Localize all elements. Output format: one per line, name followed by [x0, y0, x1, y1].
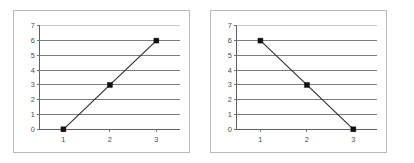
chart-panel-decreasing: 7 6 5 4 3 2 1 0 — [210, 10, 387, 153]
y-tick-label: 2 — [31, 95, 35, 104]
x-tick-label: 1 — [61, 135, 65, 144]
data-point-marker — [304, 82, 309, 87]
y-tick-label: 6 — [31, 36, 35, 45]
y-tick-label: 7 — [228, 21, 232, 30]
y-tick-label: 4 — [228, 66, 232, 75]
line-chart-decreasing: 7 6 5 4 3 2 1 0 — [211, 11, 386, 152]
y-tick-label: 3 — [228, 80, 232, 89]
y-tick-label: 3 — [31, 80, 35, 89]
data-point-marker — [61, 127, 66, 132]
y-tick-label: 1 — [228, 110, 232, 119]
y-tick-label: 7 — [31, 21, 35, 30]
y-tick-label: 5 — [228, 51, 232, 60]
data-point-marker — [154, 38, 159, 43]
x-axis-tick-labels: 1 2 3 — [61, 135, 158, 144]
charts-container: 7 6 5 4 3 2 1 0 — [0, 0, 414, 163]
x-axis-tick-labels: 1 2 3 — [258, 135, 355, 144]
y-tick-label: 1 — [31, 110, 35, 119]
y-tick-label: 6 — [228, 36, 232, 45]
y-tick-label: 2 — [228, 95, 232, 104]
x-tick-label: 2 — [305, 135, 309, 144]
y-tick-label: 5 — [31, 51, 35, 60]
y-axis-tick-labels: 7 6 5 4 3 2 1 0 — [31, 21, 35, 134]
chart-panel-increasing: 7 6 5 4 3 2 1 0 — [13, 10, 190, 153]
y-tick-label: 0 — [31, 125, 35, 134]
y-axis-tick-labels: 7 6 5 4 3 2 1 0 — [228, 21, 232, 134]
x-tick-label: 3 — [351, 135, 355, 144]
x-tick-label: 3 — [154, 135, 158, 144]
x-tick-label: 1 — [258, 135, 262, 144]
x-tick-label: 2 — [108, 135, 112, 144]
data-point-marker — [107, 82, 112, 87]
line-chart-increasing: 7 6 5 4 3 2 1 0 — [14, 11, 189, 152]
data-point-marker — [258, 38, 263, 43]
y-tick-label: 4 — [31, 66, 35, 75]
y-tick-label: 0 — [228, 125, 232, 134]
data-point-marker — [351, 127, 356, 132]
